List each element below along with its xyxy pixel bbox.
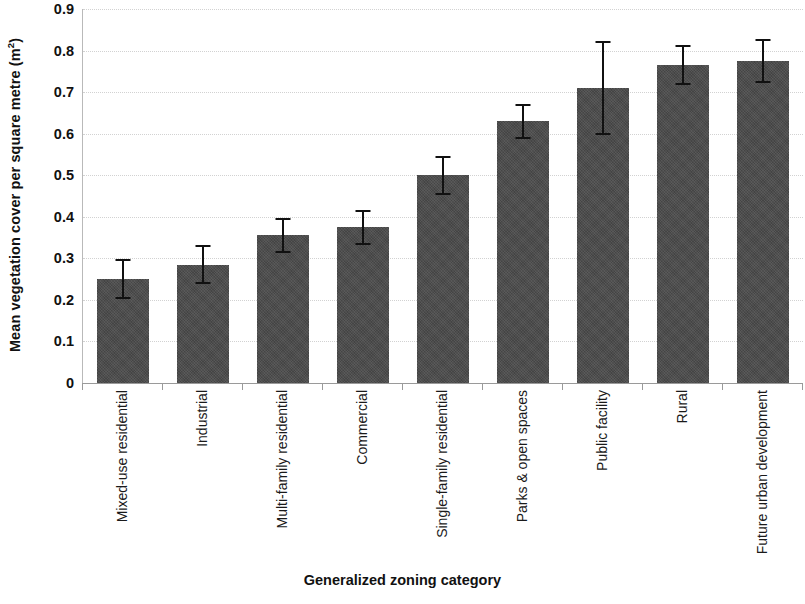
error-bar-stem <box>762 40 764 82</box>
error-bar-cap-upper <box>676 45 691 47</box>
y-axis-tick-label: 0.7 <box>54 84 74 100</box>
x-axis-tick-mark <box>802 384 803 390</box>
error-bar-cap-upper <box>356 210 371 212</box>
bar-group <box>243 9 323 383</box>
y-axis-tick-labels: 00.10.20.30.40.50.60.70.80.9 <box>30 0 82 390</box>
error-bar-stem <box>442 157 444 194</box>
error-bar-cap-lower <box>516 137 531 139</box>
x-label-slot: Rural <box>642 390 722 560</box>
error-bar-stem <box>282 219 284 252</box>
y-axis-tick-label: 0.4 <box>54 209 74 225</box>
bar-group <box>403 9 483 383</box>
y-axis-title-text: Mean vegetation cover per square metre (… <box>7 48 23 352</box>
error-bar-cap-upper <box>596 41 611 43</box>
error-bar-stem <box>602 42 604 133</box>
y-axis-tick-label: 0 <box>66 375 74 391</box>
error-bar-cap-lower <box>596 133 611 135</box>
error-bar-stem <box>202 246 204 283</box>
bar-group <box>483 9 563 383</box>
x-axis-category-label: Mixed-use residential <box>114 390 130 522</box>
error-bar-cap-upper <box>116 259 131 261</box>
x-axis-tick-mark <box>402 384 403 390</box>
error-bar-stem <box>122 260 124 297</box>
y-axis-title-container: Mean vegetation cover per square metre (… <box>0 0 30 390</box>
x-label-slot: Public facility <box>562 390 642 560</box>
error-bar-stem <box>682 46 684 83</box>
x-axis-category-label: Commercial <box>354 390 370 465</box>
y-axis-tick-label: 0.3 <box>54 250 74 266</box>
y-axis-title-tail: ) <box>7 38 23 43</box>
error-bar-cap-lower <box>196 282 211 284</box>
x-label-slot: Future urban development <box>722 390 802 560</box>
error-bar-cap-lower <box>756 81 771 83</box>
error-bar-cap-lower <box>436 193 451 195</box>
x-axis-tick-mark <box>322 384 323 390</box>
x-axis-title: Generalized zoning category <box>0 572 805 588</box>
error-bar-cap-lower <box>116 297 131 299</box>
bar <box>257 235 309 383</box>
error-bar-cap-lower <box>276 251 291 253</box>
y-axis-tick-label: 0.8 <box>54 43 74 59</box>
error-bar-cap-upper <box>276 218 291 220</box>
bar-group <box>323 9 403 383</box>
y-axis-tick-label: 0.5 <box>54 167 74 183</box>
x-axis-category-label: Industrial <box>194 390 210 447</box>
x-axis-tick-mark <box>82 384 83 390</box>
bar <box>337 227 389 383</box>
bar-group <box>163 9 243 383</box>
x-axis-tick-mark <box>562 384 563 390</box>
bar-group <box>563 9 643 383</box>
y-axis-tick-label: 0.1 <box>54 333 74 349</box>
x-axis-tick-mark <box>642 384 643 390</box>
bar <box>497 121 549 383</box>
error-bar-stem <box>522 105 524 138</box>
error-bar-cap-upper <box>516 104 531 106</box>
x-label-slot: Industrial <box>162 390 242 560</box>
vegetation-cover-bar-chart: Mean vegetation cover per square metre (… <box>0 0 805 604</box>
error-bar-cap-upper <box>756 39 771 41</box>
x-axis-category-label: Parks & open spaces <box>514 390 530 522</box>
x-axis-category-label: Single-family residential <box>434 390 450 538</box>
error-bar-cap-lower <box>676 83 691 85</box>
bar <box>417 175 469 383</box>
x-axis-category-label: Multi-family residential <box>274 390 290 528</box>
x-label-slot: Commercial <box>322 390 402 560</box>
x-axis-tick-labels: Mixed-use residentialIndustrialMulti-fam… <box>82 390 802 560</box>
x-axis-tick-mark <box>242 384 243 390</box>
error-bar-cap-upper <box>436 156 451 158</box>
y-axis-tick-label: 0.9 <box>54 1 74 17</box>
x-axis-category-label: Future urban development <box>754 390 770 554</box>
x-axis-category-label: Rural <box>674 390 690 423</box>
x-label-slot: Single-family residential <box>402 390 482 560</box>
error-bar-cap-upper <box>196 245 211 247</box>
x-label-slot: Mixed-use residential <box>82 390 162 560</box>
x-axis-tick-mark <box>162 384 163 390</box>
error-bar-cap-lower <box>356 243 371 245</box>
bar-group <box>723 9 803 383</box>
x-axis-category-label: Public facility <box>594 390 610 471</box>
bar-group <box>643 9 723 383</box>
x-axis-tick-mark <box>482 384 483 390</box>
plot-area <box>82 9 803 383</box>
x-axis-tick-mark <box>722 384 723 390</box>
x-label-slot: Parks & open spaces <box>482 390 562 560</box>
x-label-slot: Multi-family residential <box>242 390 322 560</box>
y-axis-title: Mean vegetation cover per square metre (… <box>7 38 23 352</box>
bar <box>737 61 789 383</box>
bar-group <box>83 9 163 383</box>
y-axis-tick-label: 0.2 <box>54 292 74 308</box>
y-axis-tick-label: 0.6 <box>54 126 74 142</box>
error-bar-stem <box>362 211 364 244</box>
bar <box>657 65 709 383</box>
x-axis-line <box>82 383 803 384</box>
y-axis-title-superscript: 2 <box>5 43 16 48</box>
